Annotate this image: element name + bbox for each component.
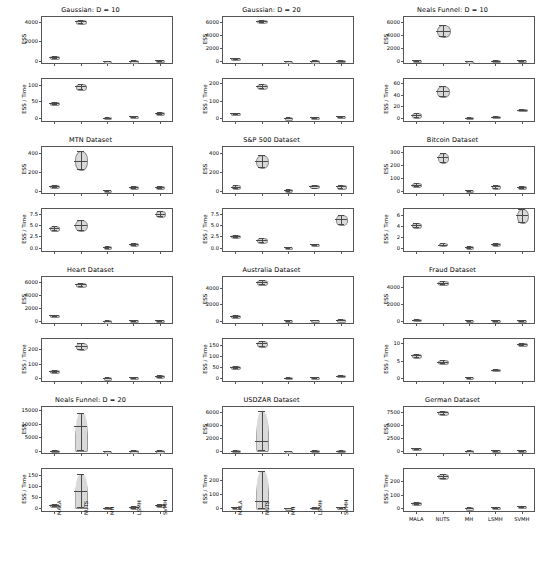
y-tick-label: 200	[15, 346, 38, 352]
violin-body	[156, 211, 166, 218]
violin-cap	[77, 474, 84, 475]
x-tick-mark	[235, 122, 236, 124]
violin-median	[256, 86, 267, 87]
y-tick-label: 0.0	[15, 245, 38, 251]
panel-[object Object]: ESS / Time0.02.55.07.5	[0, 130, 181, 260]
y-tick-label: 150	[196, 342, 219, 348]
violin-cap	[259, 242, 264, 243]
violin-cap	[52, 226, 57, 227]
y-tick-label: 60	[377, 80, 400, 86]
y-tick-label: 200	[377, 478, 400, 484]
plot-area	[41, 78, 173, 122]
plot-area	[41, 338, 173, 382]
violin-median	[74, 491, 87, 492]
violin-cap	[440, 360, 445, 361]
violin-cap	[414, 354, 419, 355]
violin-cap	[338, 215, 344, 216]
violin-whisker	[262, 471, 263, 508]
dataset-group: Australia DatasetESS020004000ESS / Time0…	[181, 260, 362, 390]
violin-cap	[467, 118, 471, 119]
violin-cap	[233, 366, 238, 367]
y-tick-mark	[39, 349, 41, 350]
violin-cap	[338, 224, 344, 225]
violin-cap	[493, 117, 497, 118]
y-tick-mark	[220, 494, 222, 495]
violin-cap	[312, 244, 316, 245]
violin-body	[257, 341, 269, 348]
violin-body	[412, 113, 422, 119]
x-tick-mark	[235, 382, 236, 384]
violin-median	[411, 225, 421, 226]
y-tick-label: 200	[196, 80, 219, 86]
x-tick-mark	[81, 122, 82, 124]
y-tick-mark	[401, 215, 403, 216]
y-tick-label: 0	[196, 115, 219, 121]
x-tick-mark	[107, 252, 108, 254]
y-tick-mark	[401, 495, 403, 496]
violin-cap	[312, 378, 316, 379]
plot-area	[403, 78, 535, 122]
x-tick-label-mala: MALA	[237, 500, 243, 515]
y-tick-mark	[220, 480, 222, 481]
violin-cap	[157, 377, 162, 378]
y-tick-mark	[220, 214, 222, 215]
y-tick-label: 10	[377, 340, 400, 346]
x-tick-mark	[54, 382, 55, 384]
violin-cap	[52, 102, 57, 103]
x-tick-mark	[341, 252, 342, 254]
y-tick-label: 100	[196, 353, 219, 359]
violin-cap	[77, 230, 84, 231]
y-axis-label: ESS / Time	[383, 82, 389, 116]
y-tick-mark	[401, 83, 403, 84]
violin-cap	[77, 349, 83, 350]
x-tick-mark	[262, 252, 263, 254]
x-tick-mark	[160, 512, 161, 514]
x-tick-mark	[341, 512, 342, 514]
violin-cap	[286, 118, 290, 119]
x-tick-label-mh: MH	[455, 516, 483, 522]
y-tick-mark	[220, 345, 222, 346]
x-tick-label-lsmh: LSMH	[481, 516, 509, 522]
x-tick-mark	[469, 382, 470, 384]
violin-cap	[518, 222, 525, 223]
violin-cap	[312, 508, 316, 509]
violin-cap	[518, 209, 525, 210]
violin-cap	[233, 237, 238, 238]
y-tick-label: 0.0	[196, 245, 219, 251]
panel-[object Object]: ESS / Time0204060	[362, 0, 543, 130]
x-tick-mark	[262, 382, 263, 384]
y-tick-label: 100	[15, 483, 38, 489]
x-tick-mark	[341, 122, 342, 124]
y-tick-label: 150	[15, 472, 38, 478]
x-tick-mark	[495, 252, 496, 254]
y-tick-mark	[39, 214, 41, 215]
violin-cap	[157, 114, 162, 115]
dataset-group: German DatasetESS0250050007500ESS / Time…	[362, 390, 543, 562]
y-tick-label: 0	[15, 375, 38, 381]
violin-median	[436, 91, 450, 92]
violin-cap	[233, 235, 238, 236]
panel-[object Object]: ESS / Time0100200	[181, 0, 362, 130]
violin-cap	[493, 369, 497, 370]
x-tick-mark	[262, 512, 263, 514]
violin-cap	[286, 248, 290, 249]
y-tick-mark	[39, 236, 41, 237]
violin-plot-figure: Gaussian: D = 10ESS020004000ESS / Time05…	[0, 0, 543, 562]
violin-cap	[414, 117, 419, 118]
x-tick-mark	[133, 252, 134, 254]
violin-median	[437, 362, 447, 363]
violin-cap	[259, 88, 265, 89]
x-tick-label-mh: MH	[109, 507, 115, 515]
violin-cap	[493, 243, 497, 244]
y-tick-label: 100	[377, 492, 400, 498]
x-tick-label-svmh: SVMH	[343, 500, 349, 515]
violin-body	[76, 84, 87, 91]
x-tick-label-nuts: NUTS	[83, 501, 89, 515]
y-tick-label: 0	[377, 115, 400, 121]
x-tick-label-svmh: SVMH	[162, 500, 168, 515]
violin-cap	[312, 245, 316, 246]
y-tick-mark	[401, 118, 403, 119]
x-tick-label-nuts: NUTS	[264, 501, 270, 515]
y-tick-mark	[39, 497, 41, 498]
y-tick-label: 0	[15, 115, 38, 121]
